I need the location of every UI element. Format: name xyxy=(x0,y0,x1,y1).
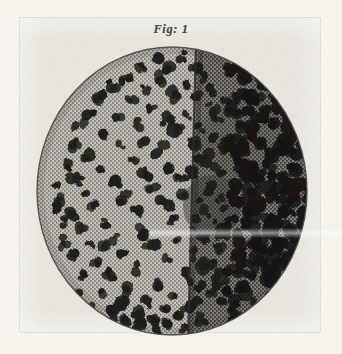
ink-blotch xyxy=(283,77,305,95)
ink-blotch xyxy=(276,329,284,336)
ink-blotch xyxy=(305,240,308,263)
ink-blotch xyxy=(290,315,302,331)
ink-blotch xyxy=(295,107,308,125)
figure-disc xyxy=(36,46,308,336)
ink-blotch xyxy=(281,304,301,324)
ink-blotch xyxy=(253,49,263,61)
ink-blotch xyxy=(272,67,294,87)
ink-blotch xyxy=(304,261,308,277)
ink-blotch xyxy=(294,322,308,336)
engraving-plate-root: Fig: 1 xyxy=(0,0,342,354)
ink-blotch xyxy=(295,255,308,266)
ink-blotch xyxy=(253,317,268,333)
ink-blotch xyxy=(307,287,308,303)
ink-blotch xyxy=(231,330,248,336)
ink-blotch xyxy=(293,287,307,304)
ink-blotch xyxy=(255,331,267,336)
ink-blotch xyxy=(269,310,283,327)
ink-blotch xyxy=(302,111,308,133)
ink-blotch xyxy=(302,230,308,255)
ink-blotch xyxy=(304,91,308,109)
ink-blotch xyxy=(233,323,246,336)
ink-blotch xyxy=(297,260,308,288)
ink-blotch xyxy=(292,94,308,115)
ink-blotch xyxy=(298,74,308,92)
figure-caption: Fig: 1 xyxy=(0,22,342,37)
ink-blotch xyxy=(270,59,284,79)
ink-blotch xyxy=(293,62,308,75)
ink-blotch xyxy=(272,319,284,335)
ink-blotch xyxy=(289,314,307,328)
ink-blotch xyxy=(304,277,308,298)
ink-blotch xyxy=(297,85,308,104)
ink-blotch xyxy=(259,46,274,55)
ink-blotch xyxy=(241,52,250,61)
ink-blotch xyxy=(277,46,294,61)
ink-blotch xyxy=(303,54,308,65)
ink-blotch xyxy=(294,76,304,87)
ink-blotch xyxy=(270,284,300,313)
ink-blotch xyxy=(306,123,308,146)
ink-blotch xyxy=(287,270,308,289)
ink-blotch xyxy=(283,50,298,69)
figure-disc-svg xyxy=(36,46,308,336)
ink-blotch xyxy=(292,298,308,317)
